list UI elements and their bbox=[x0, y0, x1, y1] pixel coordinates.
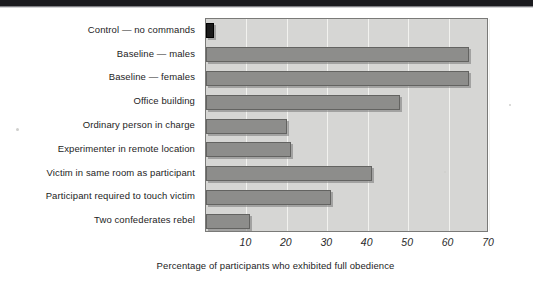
y-axis-label: Office building bbox=[133, 95, 195, 106]
x-axis-caption-text: Percentage of participants who exhibited… bbox=[139, 260, 395, 271]
gridline bbox=[489, 19, 490, 231]
page-top-strip-fade bbox=[0, 6, 533, 8]
bar[interactable] bbox=[206, 95, 400, 110]
x-axis-tick-labels: 10203040506070 bbox=[0, 236, 533, 252]
bars-layer bbox=[206, 19, 487, 231]
x-axis-tick-label: 70 bbox=[482, 236, 494, 248]
bar[interactable] bbox=[206, 190, 331, 205]
x-axis-tick-label: 40 bbox=[361, 236, 373, 248]
scan-speck bbox=[444, 171, 446, 173]
x-axis-tick-label: 20 bbox=[280, 236, 292, 248]
y-axis-label: Experimenter in remote location bbox=[58, 143, 195, 154]
bar-row bbox=[206, 214, 489, 229]
bar-row bbox=[206, 71, 489, 86]
bar-row bbox=[206, 23, 489, 38]
plot-area bbox=[205, 18, 488, 232]
bar[interactable] bbox=[206, 142, 291, 157]
scan-speck bbox=[16, 128, 19, 131]
x-axis-tick-label: 50 bbox=[401, 236, 413, 248]
figure-container: Control — no commandsBaseline — malesBas… bbox=[0, 0, 533, 286]
bar[interactable] bbox=[206, 166, 372, 181]
bar[interactable] bbox=[206, 119, 287, 134]
y-axis-label: Ordinary person in charge bbox=[83, 119, 195, 130]
y-axis-label: Control — no commands bbox=[88, 24, 195, 35]
bar-row bbox=[206, 119, 489, 134]
bar-row bbox=[206, 166, 489, 181]
bar-row bbox=[206, 47, 489, 62]
x-axis-tick-label: 60 bbox=[442, 236, 454, 248]
y-axis-label: Participant required to touch victim bbox=[46, 190, 195, 201]
bar-row bbox=[206, 95, 489, 110]
bar[interactable] bbox=[206, 71, 469, 86]
y-axis-label: Baseline — males bbox=[117, 48, 195, 59]
bar[interactable] bbox=[206, 23, 214, 38]
y-axis-label: Baseline — females bbox=[109, 71, 195, 82]
bar-row bbox=[206, 190, 489, 205]
x-axis-tick-label: 30 bbox=[320, 236, 332, 248]
scan-speck bbox=[509, 104, 511, 106]
x-axis-tick-label: 10 bbox=[240, 236, 252, 248]
x-axis-caption: Percentage of participants who exhibited… bbox=[0, 260, 533, 271]
bar-row bbox=[206, 142, 489, 157]
y-axis-labels: Control — no commandsBaseline — malesBas… bbox=[0, 18, 200, 232]
y-axis-label: Two confederates rebel bbox=[94, 214, 195, 225]
bar[interactable] bbox=[206, 47, 469, 62]
y-axis-label: Victim in same room as participant bbox=[47, 167, 195, 178]
bar[interactable] bbox=[206, 214, 250, 229]
